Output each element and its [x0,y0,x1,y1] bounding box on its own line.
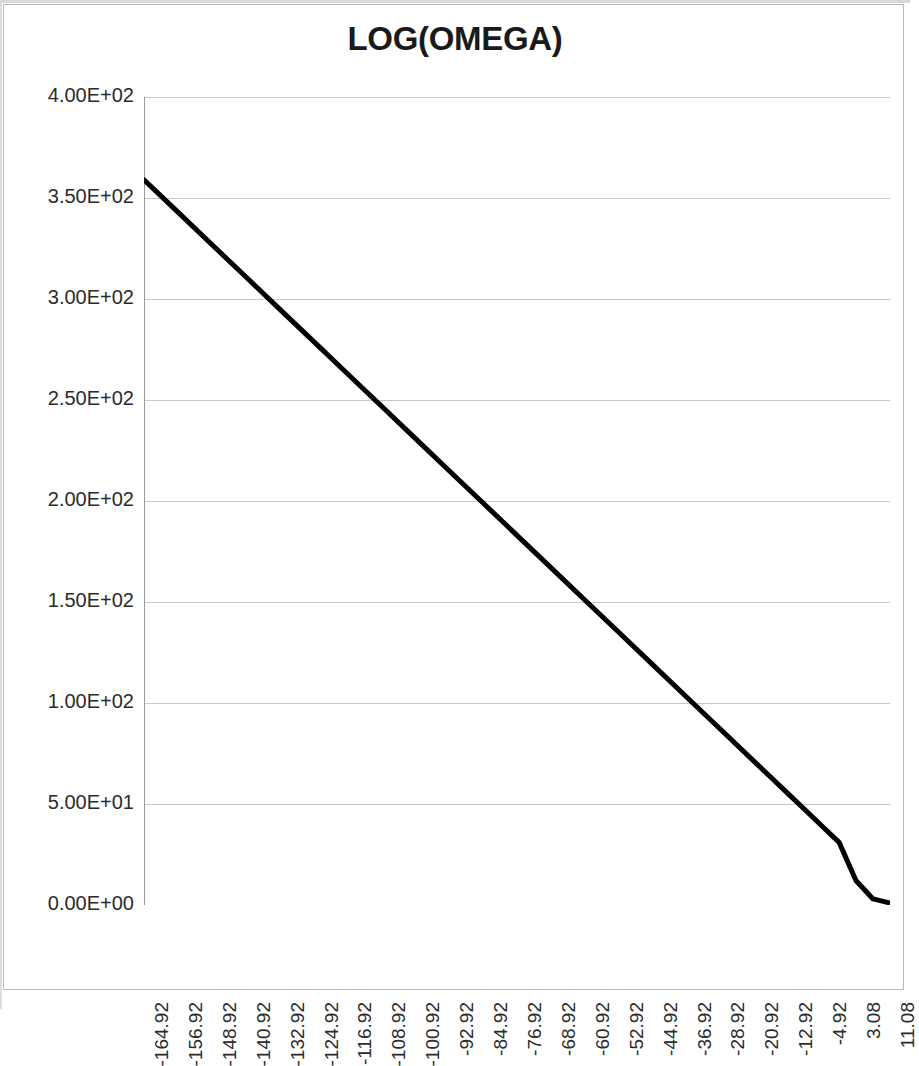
x-axis-tick-label: -28.92 [727,1002,749,1056]
x-axis-tick-label: -68.92 [558,1002,580,1056]
x-axis-tick-label: -100.92 [422,1002,444,1066]
x-axis-tick-label: -36.92 [694,1002,716,1056]
x-axis-tick-label: -20.92 [761,1002,783,1056]
x-axis-tick-label: -116.92 [354,1002,376,1065]
x-axis-tick-label: -140.92 [253,1002,275,1066]
x-axis-tick-label: -124.92 [321,1002,343,1066]
x-axis-tick-label: 3.08 [863,1002,885,1039]
x-axis-tick-label: -84.92 [490,1002,512,1056]
x-axis-tick-label: -60.92 [592,1002,614,1056]
plot-area [144,97,890,905]
x-axis-tick-label: -76.92 [524,1002,546,1056]
x-axis-tick-label: -148.92 [219,1002,241,1066]
data-line [144,180,890,903]
x-axis-tick-label: -12.92 [795,1002,817,1056]
data-series-group [144,180,890,903]
x-axis-tick-label: -156.92 [185,1002,207,1066]
x-axis-labels: -164.92-156.92-148.92-140.92-132.92-124.… [144,910,890,1005]
x-axis-tick-label: -164.92 [151,1002,173,1066]
x-axis-tick-label: -108.92 [388,1002,410,1066]
x-axis-tick-label: -52.92 [626,1002,648,1056]
x-axis-tick-label: -132.92 [287,1002,309,1066]
x-axis-tick-label: -44.92 [660,1002,682,1056]
x-axis-tick-label: -4.92 [829,1002,851,1045]
x-axis-tick-label: -92.92 [456,1002,478,1056]
plot-svg [144,97,890,905]
x-axis-tick-label: 11.08 [897,1002,919,1048]
